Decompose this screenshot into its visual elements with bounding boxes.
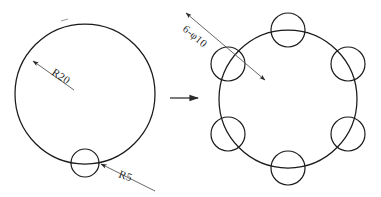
left-main-circle	[15, 24, 155, 164]
left-figure-group: R20 R5	[15, 19, 155, 191]
r20-dimension-label: R20	[50, 66, 73, 87]
bolt-circle	[219, 30, 357, 168]
drawing-canvas: R20 R5 6-φ10	[0, 0, 381, 197]
construction-tick-icon	[61, 19, 68, 21]
right-figure-group: 6-φ10	[181, 13, 365, 185]
r5-dimension-label: R5	[117, 168, 134, 184]
hole-callout-label: 6-φ10	[181, 22, 210, 49]
engineering-drawing: R20 R5 6-φ10	[0, 0, 381, 197]
